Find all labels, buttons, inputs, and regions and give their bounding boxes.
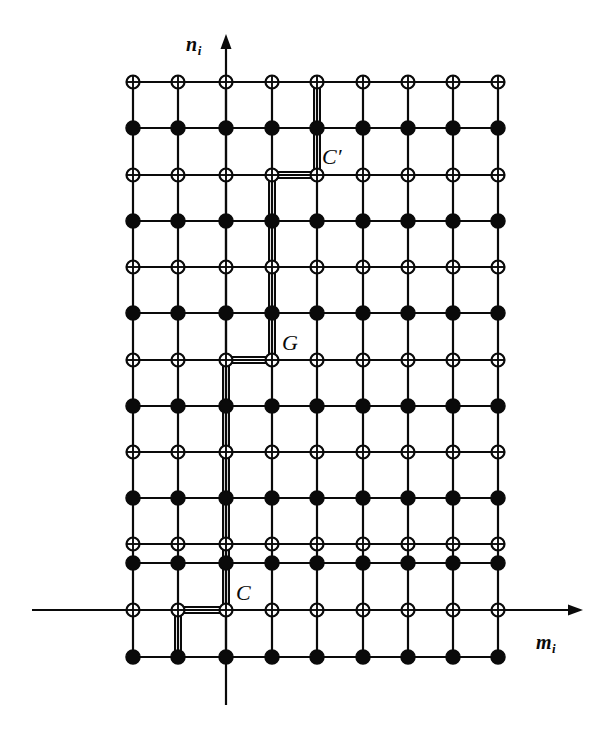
filled-circle-site-13-2	[219, 650, 233, 664]
lattice-sites-layer	[126, 76, 505, 665]
filled-circle-site-3-8	[491, 214, 505, 228]
axis-label-base: m	[536, 631, 552, 653]
point-label-text: C	[322, 144, 337, 169]
filled-circle-site-3-4	[310, 214, 324, 228]
filled-circle-site-1-5	[356, 121, 370, 135]
filled-circle-site-11-1	[171, 556, 185, 570]
filled-circle-site-7-5	[356, 399, 370, 413]
lattice-figure: ni mi C′GC	[0, 0, 613, 730]
filled-circle-site-11-5	[356, 556, 370, 570]
emphasised-path	[175, 78, 320, 661]
axis-label-base: n	[186, 33, 197, 55]
filled-circle-site-7-2	[219, 399, 233, 413]
filled-circle-site-11-3	[265, 556, 279, 570]
filled-circle-site-11-7	[446, 556, 460, 570]
filled-circle-site-3-3	[265, 214, 279, 228]
filled-circle-site-1-8	[491, 121, 505, 135]
point-label-text: C	[236, 580, 251, 605]
filled-circle-site-5-8	[491, 306, 505, 320]
lattice-canvas	[0, 0, 613, 730]
filled-circle-site-3-0	[126, 214, 140, 228]
m-axis-arrowhead	[568, 605, 583, 616]
axis-label-subscript: i	[198, 43, 202, 58]
filled-circle-site-3-5	[356, 214, 370, 228]
filled-circle-site-11-0	[126, 556, 140, 570]
point-label-text: G	[282, 330, 298, 355]
filled-circle-site-3-2	[219, 214, 233, 228]
filled-circle-site-5-1	[171, 306, 185, 320]
filled-circle-site-5-7	[446, 306, 460, 320]
filled-circle-site-1-1	[171, 121, 185, 135]
label-c: C	[236, 582, 251, 604]
filled-circle-site-3-1	[171, 214, 185, 228]
filled-circle-site-7-4	[310, 399, 324, 413]
filled-circle-site-9-7	[446, 491, 460, 505]
filled-circle-site-1-2	[219, 121, 233, 135]
filled-circle-site-5-2	[219, 306, 233, 320]
label-g: G	[282, 332, 298, 354]
filled-circle-site-11-4	[310, 556, 324, 570]
axis-label-subscript: i	[552, 641, 556, 656]
filled-circle-site-13-0	[126, 650, 140, 664]
n-axis-label: ni	[186, 34, 201, 57]
prime-mark: ′	[337, 144, 342, 169]
filled-circle-site-7-3	[265, 399, 279, 413]
n-axis-arrowhead	[221, 34, 232, 49]
filled-circle-site-5-3	[265, 306, 279, 320]
filled-circle-site-9-1	[171, 491, 185, 505]
filled-circle-site-1-3	[265, 121, 279, 135]
filled-circle-site-1-6	[401, 121, 415, 135]
filled-circle-site-9-6	[401, 491, 415, 505]
filled-circle-site-1-4	[310, 121, 324, 135]
filled-circle-site-9-4	[310, 491, 324, 505]
filled-circle-site-11-8	[491, 556, 505, 570]
filled-circle-site-9-5	[356, 491, 370, 505]
filled-circle-site-3-6	[401, 214, 415, 228]
filled-circle-site-5-6	[401, 306, 415, 320]
filled-circle-site-5-5	[356, 306, 370, 320]
filled-circle-site-9-2	[219, 491, 233, 505]
filled-circle-site-1-0	[126, 121, 140, 135]
filled-circle-site-11-2	[219, 556, 233, 570]
filled-circle-site-7-8	[491, 399, 505, 413]
filled-circle-site-13-1	[171, 650, 185, 664]
filled-circle-site-5-4	[310, 306, 324, 320]
filled-circle-site-7-7	[446, 399, 460, 413]
label-c-prime: C′	[322, 146, 342, 168]
filled-circle-site-7-1	[171, 399, 185, 413]
filled-circle-site-9-3	[265, 491, 279, 505]
filled-circle-site-13-5	[356, 650, 370, 664]
m-axis-label: mi	[536, 632, 556, 655]
filled-circle-site-5-0	[126, 306, 140, 320]
filled-circle-site-13-7	[446, 650, 460, 664]
filled-circle-site-13-6	[401, 650, 415, 664]
filled-circle-site-1-7	[446, 121, 460, 135]
filled-circle-site-13-8	[491, 650, 505, 664]
filled-circle-site-3-7	[446, 214, 460, 228]
filled-circle-site-7-6	[401, 399, 415, 413]
filled-circle-site-13-3	[265, 650, 279, 664]
filled-circle-site-13-4	[310, 650, 324, 664]
filled-circle-site-9-8	[491, 491, 505, 505]
filled-circle-site-11-6	[401, 556, 415, 570]
filled-circle-site-7-0	[126, 399, 140, 413]
filled-circle-site-9-0	[126, 491, 140, 505]
